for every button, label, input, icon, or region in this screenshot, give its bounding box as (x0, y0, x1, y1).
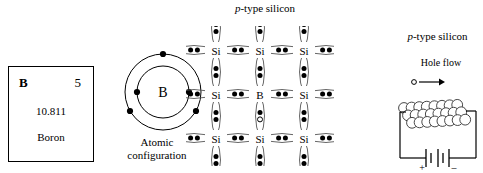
dopant-atom-label: B (256, 89, 263, 101)
hole-flow-arrowhead (439, 79, 445, 86)
electron-dot (320, 48, 325, 53)
silicon-atom-label: Si (299, 89, 308, 101)
electron-dot (283, 48, 288, 53)
electron-dot (302, 154, 307, 159)
inner-electron (134, 89, 140, 95)
electron-dot (302, 26, 307, 27)
electron-dot (258, 66, 263, 71)
nucleus-label: B (158, 85, 167, 100)
electron-dot (276, 136, 281, 141)
battery-negative-terminal-label: – (451, 162, 458, 173)
silicon-atom-label: Si (255, 45, 264, 57)
electron-dot (232, 48, 237, 53)
electron-dot (232, 136, 237, 141)
silicon-atom-label: Si (211, 45, 220, 57)
electron-dot (302, 29, 307, 34)
electron-dot (283, 92, 288, 97)
outer-electron (127, 108, 133, 114)
electron-dot (239, 92, 244, 97)
electron-dot (320, 136, 325, 141)
electron-dot (320, 92, 325, 97)
element-atomic-number: 5 (75, 75, 82, 91)
element-info-box: B 5 10.811 Boron (8, 66, 94, 162)
electron-dot (258, 26, 263, 27)
electron-dot (302, 73, 307, 78)
electron-dot (302, 161, 307, 166)
electron-dot (188, 92, 193, 97)
element-symbol: B (19, 75, 28, 91)
battery-positive-terminal-label: + (419, 162, 425, 173)
electron-dot (258, 29, 263, 34)
electron-dot (214, 66, 219, 71)
crystal-lattice-diagram: SiSiSiSiBSiSiSiSi (186, 26, 334, 170)
electron-dot (302, 117, 307, 122)
electron-dot (276, 92, 281, 97)
circuit-title-rest: -type silicon (413, 30, 468, 42)
electron-dot (214, 110, 219, 115)
electron-dot (302, 66, 307, 71)
hole-marker (258, 117, 263, 122)
hole-marker (412, 80, 417, 85)
lattice-title-rest: -type silicon (240, 2, 295, 14)
electron-dot (239, 48, 244, 53)
electron-dot (258, 161, 263, 166)
electron-dot (276, 48, 281, 53)
element-name: Boron (9, 131, 93, 143)
electron-dot (327, 48, 332, 53)
electron-dot (214, 26, 219, 27)
element-atomic-mass: 10.811 (9, 105, 93, 117)
silicon-atom-label: Si (299, 133, 308, 145)
electron-dot (258, 154, 263, 159)
electron-dot (195, 92, 200, 97)
electron-dot (214, 117, 219, 122)
electron-dot (214, 154, 219, 159)
electron-dot (195, 136, 200, 141)
electron-dot (195, 48, 200, 53)
electron-dot (232, 92, 237, 97)
silicon-atom-label: Si (255, 133, 264, 145)
electron-dot (327, 92, 332, 97)
silicon-atom-sphere (460, 114, 471, 125)
outer-electron (160, 51, 166, 57)
electron-dot (258, 73, 263, 78)
electron-dot (214, 161, 219, 166)
circuit-title: p-type silicon (392, 30, 483, 43)
silicon-atom-label: Si (211, 89, 220, 101)
electron-dot (188, 48, 193, 53)
silicon-bar (399, 99, 471, 128)
electron-dot (239, 136, 244, 141)
electron-dot (327, 136, 332, 141)
electron-dot (214, 29, 219, 34)
electron-dot (214, 73, 219, 78)
silicon-atom-label: Si (211, 133, 220, 145)
silicon-atom-label: Si (299, 45, 308, 57)
electron-dot (258, 110, 263, 115)
electron-dot (283, 136, 288, 141)
electron-dot (188, 136, 193, 141)
electron-dot (302, 110, 307, 115)
circuit-diagram: +– (392, 78, 483, 173)
lattice-title: p-type silicon (200, 2, 330, 15)
hole-flow-label: Hole flow (405, 56, 477, 69)
